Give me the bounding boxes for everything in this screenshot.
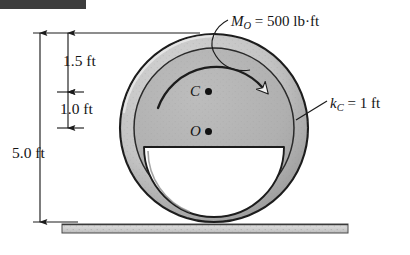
moment-value: 500 lb·ft [267,13,319,29]
radius-of-gyration-label: kC = 1 ft [330,96,380,113]
point-c-label: C [190,84,200,99]
radius-of-gyration-equals: = [344,95,360,111]
point-c-symbol: C [190,83,200,99]
moment-equals: = [251,13,267,29]
dimension-label-overall: 5.0 ft [12,145,45,161]
point-o-label: O [190,124,201,139]
figure-canvas [0,0,410,255]
moment-label: MO = 500 lb·ft [231,14,319,31]
wheel-dynamics-figure: MO = 500 lb·ft kC = 1 ft 1.5 ft 1.0 ft 5… [0,0,410,255]
point-c-marker-dot [205,88,212,95]
ground-surface [62,224,348,233]
point-o-symbol: O [190,123,201,139]
point-o-marker-dot [205,128,212,135]
radius-of-gyration-symbol: k [330,95,337,111]
dimension-label-middle: 1.0 ft [60,101,93,117]
radius-of-gyration-subscript: C [337,102,344,113]
radius-of-gyration-value: 1 ft [360,95,380,111]
moment-symbol: M [231,13,244,29]
dimension-label-top: 1.5 ft [63,53,96,69]
moment-subscript: O [244,20,252,31]
